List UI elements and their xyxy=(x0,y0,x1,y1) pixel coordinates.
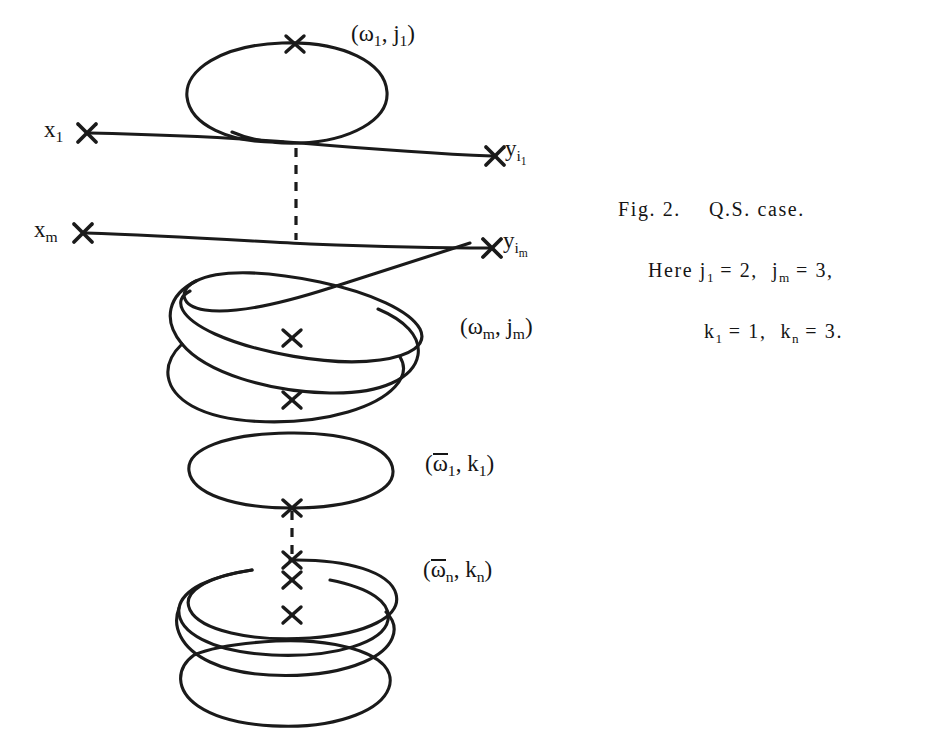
caption-line-k-values: k1 = 1,kn = 3. xyxy=(704,320,947,347)
label-x-m: xm xyxy=(34,218,58,245)
caption-kn-value: = 3. xyxy=(805,320,843,342)
diagram-canvas xyxy=(0,0,947,737)
label-omega-m: (ωm, jm) xyxy=(460,315,533,342)
omega-1-subscript: 1 xyxy=(374,32,382,49)
segment-xm-line xyxy=(86,233,489,248)
x-1-subscript: 1 xyxy=(56,128,64,145)
caption-kn-subscript: n xyxy=(792,331,799,346)
y-im-sub-subscript: m xyxy=(519,247,528,260)
omega-m-subscript: m xyxy=(483,325,495,342)
orbit-omega-1-loop xyxy=(187,43,387,143)
caption-line-j-values: Here j1 = 2,jm = 3, xyxy=(648,259,947,286)
y-i1-subscript: i1 xyxy=(517,147,527,164)
orbit-omega-bar-1-loop xyxy=(189,433,393,508)
k-n-symbol: k xyxy=(465,557,477,582)
omega-1-symbol: ω xyxy=(359,21,374,46)
segment-xm-y-im xyxy=(86,233,489,248)
caption-here-j1: Here j xyxy=(648,259,707,281)
cross-mark-omega-bar-n-3 xyxy=(283,607,301,623)
label-y-i1: yi1 xyxy=(505,137,527,168)
orbit-omega-1 xyxy=(187,43,387,143)
omega-m-symbol: ω xyxy=(468,314,483,339)
y-i1-base: y xyxy=(505,136,517,161)
omega-bar-1-symbol: ω xyxy=(433,452,448,475)
y-im-base: y xyxy=(503,228,515,253)
caption-k1-symbol: k xyxy=(704,320,716,342)
caption-jm-symbol: j xyxy=(772,259,779,281)
orbit-omega-bar-1 xyxy=(189,433,393,508)
caption-j1-subscript: 1 xyxy=(707,270,714,285)
orbit-omega-bar-n-turn-2 xyxy=(179,570,388,655)
orbit-omega-bar-n-turn-1 xyxy=(188,560,397,639)
orbit-omega-bar-n-bottom-loop xyxy=(181,641,391,727)
k-1-symbol: k xyxy=(467,451,479,476)
caption-j1-value: = 2, xyxy=(720,259,758,281)
caption-jm-value: = 3, xyxy=(796,259,834,281)
omega-bar-n-symbol: ω xyxy=(431,558,446,581)
caption-case-text: Q.S. case. xyxy=(709,198,805,220)
cross-mark-omega-m-upper xyxy=(283,330,301,346)
caption-kn-symbol: k xyxy=(781,320,793,342)
label-omega-1: (ω1, j1) xyxy=(351,22,415,49)
label-x-1: x1 xyxy=(44,118,63,145)
cross-mark-omega-m-lower xyxy=(283,392,301,408)
caption-k1-value: = 1, xyxy=(729,320,767,342)
label-y-im: yim xyxy=(503,229,528,260)
x-m-subscript: m xyxy=(46,228,58,245)
y-i1-sub-subscript: 1 xyxy=(521,155,527,168)
caption-jm-subscript: m xyxy=(779,270,789,285)
j-m-subscript: m xyxy=(513,325,525,342)
orbit-omega-m-spiral xyxy=(181,243,470,362)
x-1-base: x xyxy=(44,117,56,142)
y-im-subscript: im xyxy=(515,239,528,256)
omega-bar-n-subscript: n xyxy=(446,568,454,585)
label-omega-bar-n: (ωn, kn) xyxy=(423,558,492,585)
cross-mark-omega-bar-n-2 xyxy=(283,572,301,588)
orbit-omega-m xyxy=(168,243,470,422)
figure-caption: Fig. 2.Q.S. case. Here j1 = 2,jm = 3, k1… xyxy=(612,198,947,347)
caption-title-line: Fig. 2.Q.S. case. xyxy=(618,198,947,221)
label-omega-bar-1: (ω1, k1) xyxy=(425,452,494,479)
caption-fig-number: Fig. 2. xyxy=(618,198,681,220)
omega-bar-1-subscript: 1 xyxy=(448,462,456,479)
x-m-base: x xyxy=(34,217,46,242)
figure-root: (ω1, j1) (ωm, jm) (ω1, k1) (ωn, kn) x1 x… xyxy=(0,0,947,737)
